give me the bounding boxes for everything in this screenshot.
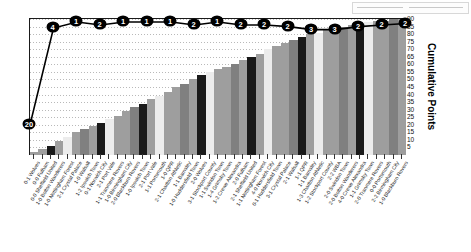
x-axis-tick [83, 154, 84, 159]
strip-tick-right [409, 7, 463, 8]
x-axis-tick [384, 154, 385, 159]
cumulative-point-label: 1 [164, 16, 177, 27]
plot-area [29, 18, 406, 155]
x-axis-tick [167, 154, 168, 159]
y-axis-tick-label: 35 [407, 98, 414, 105]
x-axis-tick [125, 154, 126, 159]
cumulative-point-label: 1 [70, 16, 83, 27]
top-toolbar-strip [352, 2, 469, 14]
x-axis-tick [175, 154, 176, 159]
x-axis-tick [133, 154, 134, 159]
x-axis-tick [376, 154, 377, 159]
x-axis-tick [67, 154, 68, 159]
x-axis-tick [284, 154, 285, 159]
y-axis-tick-label: 40 [407, 90, 414, 97]
x-axis-tick [75, 154, 76, 159]
x-axis-tick [33, 154, 34, 159]
cumulative-point-label: 2 [352, 20, 365, 31]
y-axis-title: Cumulative Points [424, 18, 440, 154]
x-axis-tick [309, 154, 310, 159]
x-axis-tick [250, 154, 251, 159]
x-axis-tick [267, 154, 268, 159]
x-axis-tick [58, 154, 59, 159]
cumulative-point-label: 2 [187, 19, 200, 30]
cumulative-point-label: 2 [258, 19, 271, 30]
y-axis-tick-label: 55 [407, 67, 414, 74]
cumulative-point-label: 1 [117, 16, 130, 27]
cumulative-point-label: 3 [328, 23, 341, 34]
cumulative-line-path [30, 22, 406, 125]
x-axis-tick [317, 154, 318, 159]
x-axis-tick [150, 154, 151, 159]
y-axis-tick-label: 10 [407, 135, 414, 142]
x-axis-tick [117, 154, 118, 159]
x-axis-tick [225, 154, 226, 159]
x-axis-tick [301, 154, 302, 159]
y-axis-tick-label: 15 [407, 128, 414, 135]
x-axis-tick [200, 154, 201, 159]
chart-root: 204121112122233222 908580757065605550454… [0, 0, 471, 252]
x-axis-tick [401, 154, 402, 159]
y-axis-tick-label: 30 [407, 105, 414, 112]
x-axis-tick [192, 154, 193, 159]
strip-tick-left [357, 7, 403, 8]
x-axis-tick [393, 154, 394, 159]
y-axis-tick-label: 5 [407, 143, 410, 150]
y-axis-tick-label: 20 [407, 120, 414, 127]
x-axis-tick [142, 154, 143, 159]
y-axis-tick-label: 60 [407, 60, 414, 67]
cumulative-point-label: 1 [211, 16, 224, 27]
x-axis-labels: 0-1 Wolves0-0 Fulham0-0 Sheffield United… [29, 154, 405, 252]
cumulative-line [30, 19, 406, 155]
x-axis-tick [234, 154, 235, 159]
x-axis-tick [342, 154, 343, 159]
cumulative-point-label: 20 [23, 118, 36, 129]
y-axis-tick-label: 90 [407, 15, 414, 22]
x-axis-tick [108, 154, 109, 159]
y-axis-tick-label: 50 [407, 75, 414, 82]
y-axis-tick-label: 70 [407, 45, 414, 52]
x-axis-tick [259, 154, 260, 159]
x-axis-tick [184, 154, 185, 159]
x-axis-tick [100, 154, 101, 159]
x-axis-tick [217, 154, 218, 159]
cumulative-point-label: 2 [93, 19, 106, 30]
x-axis-tick [292, 154, 293, 159]
y-axis-tick-label: 45 [407, 83, 414, 90]
x-axis-tick [159, 154, 160, 159]
y-axis-title-text: Cumulative Points [427, 42, 438, 129]
cumulative-point-label: 2 [281, 20, 294, 31]
y-axis-tick-label: 85 [407, 22, 414, 29]
y-axis-tick-label: 80 [407, 30, 414, 37]
y-axis-tick-label: 75 [407, 37, 414, 44]
x-axis-tick [326, 154, 327, 159]
x-axis-tick [50, 154, 51, 159]
x-axis-tick [92, 154, 93, 159]
cumulative-point-label: 4 [46, 22, 59, 33]
x-axis-tick [359, 154, 360, 159]
x-axis-tick [351, 154, 352, 159]
x-axis-tick [367, 154, 368, 159]
cumulative-point-label: 2 [375, 19, 388, 30]
y-axis-tick-label: 65 [407, 52, 414, 59]
x-axis-tick [334, 154, 335, 159]
cumulative-point-label: 3 [305, 23, 318, 34]
x-axis-tick [209, 154, 210, 159]
x-axis-tick [276, 154, 277, 159]
cumulative-point-label: 2 [234, 19, 247, 30]
cumulative-point-label: 1 [140, 16, 153, 27]
x-axis-tick [242, 154, 243, 159]
y-axis-tick-label: 25 [407, 113, 414, 120]
x-axis-tick [42, 154, 43, 159]
